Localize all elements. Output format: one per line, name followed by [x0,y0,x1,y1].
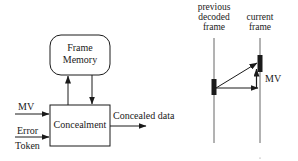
previous-frame-block [212,79,217,95]
previous-frame-line1: previous [194,2,234,12]
concealed-data-label: Concealed data [113,111,174,121]
current-frame-label: current frame [242,12,278,32]
frame-memory-label: Frame Memory [50,42,110,66]
current-frame-line2: frame [242,22,278,32]
frame-memory-line2: Memory [50,54,110,66]
current-frame-line1: current [242,12,278,22]
error-input-label: Error [17,126,38,136]
previous-frame-line2: decoded [194,12,234,22]
previous-frame-line3: frame [194,22,234,32]
token-input-label: Token [15,141,40,151]
motion-vector-diagonal-arrow [216,63,257,88]
motion-mv-label: MV [265,74,281,84]
stray-dot [259,157,260,158]
previous-frame-label: previous decoded frame [194,2,234,32]
mv-input-label: MV [18,102,34,112]
concealment-label: Concealment [50,120,110,130]
frame-memory-line1: Frame [50,42,110,54]
current-frame-block [258,55,263,72]
